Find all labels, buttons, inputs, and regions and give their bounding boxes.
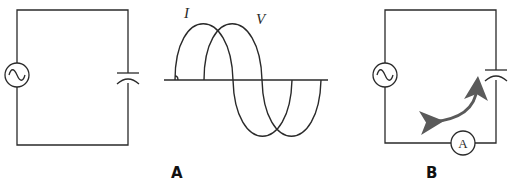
ac-source-icon xyxy=(5,63,29,87)
capacitor-icon xyxy=(117,73,139,84)
panel-label-b: B xyxy=(426,164,437,182)
current-flow-arrow-icon xyxy=(432,88,477,122)
phase-graph: I V xyxy=(164,5,328,136)
current-label: I xyxy=(183,5,190,21)
circuit-a-wire xyxy=(17,10,128,145)
panel-label-a: A xyxy=(171,164,183,182)
diagram-canvas: I V A A B xyxy=(0,0,512,183)
ammeter-label: A xyxy=(458,136,468,151)
ac-source-icon xyxy=(373,63,397,87)
circuit-b: A xyxy=(373,10,507,155)
circuit-b-wire xyxy=(385,10,496,143)
ammeter-icon: A xyxy=(451,131,475,155)
voltage-label: V xyxy=(256,11,267,27)
circuit-a xyxy=(5,10,139,145)
capacitor-icon xyxy=(485,70,507,81)
